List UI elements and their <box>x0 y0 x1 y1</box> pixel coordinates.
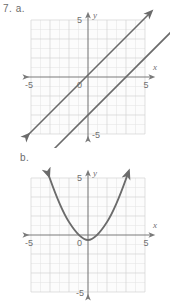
x-positive-tick-label: 5 <box>143 80 148 90</box>
x-positive-tick-label: 5 <box>143 238 148 248</box>
y-negative-tick-label: -5 <box>92 130 100 140</box>
worksheet-page: 7. a. <box>0 0 170 307</box>
origin-label: 0 <box>77 80 82 90</box>
y-positive-tick-label: 5 <box>77 173 82 183</box>
x-negative-tick-label: -5 <box>25 80 33 90</box>
y-negative-tick-label: -5 <box>76 288 84 298</box>
y-axis-name: y <box>92 168 97 178</box>
y-positive-tick-label: 5 <box>77 15 82 25</box>
parabola-graph: -5 5 5 -5 0 x y <box>0 160 170 307</box>
y-axis-name: y <box>92 10 97 20</box>
origin-label: 0 <box>77 238 82 248</box>
x-negative-tick-label: -5 <box>25 238 33 248</box>
linear-graph: -5 5 5 -5 0 x y <box>0 8 170 148</box>
x-axis-name: x <box>152 220 157 230</box>
x-axis-name: x <box>152 62 157 72</box>
